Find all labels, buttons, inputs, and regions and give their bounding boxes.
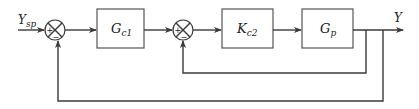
output-label: Y [394,11,403,25]
output-signal: Y [353,11,403,30]
input-signal: Ysp [18,13,44,30]
summing-junction-2: + − [173,20,193,42]
block-kc2: Kc2 [222,9,273,48]
block-gp: Gp [302,9,353,48]
minus-sign: − [53,33,60,42]
block-diagram: Ysp + − Gc1 + − Kc2 Gp Y [0,0,419,109]
input-label: Ysp [18,13,37,29]
block-gc1: Gc1 [97,9,144,48]
summing-junction-1: + − [45,20,65,42]
minus-sign: − [181,33,188,42]
